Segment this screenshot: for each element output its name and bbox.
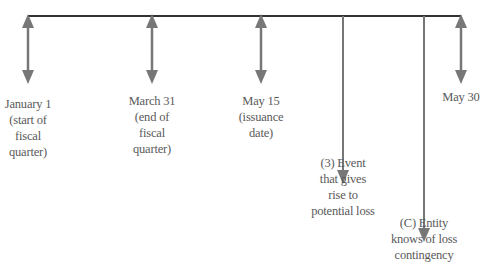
label-line: May 30 bbox=[442, 89, 479, 105]
label-line: May 15 bbox=[239, 93, 284, 109]
label-line: (C) Entity bbox=[391, 215, 457, 231]
label-line: knows of loss bbox=[391, 231, 457, 247]
label-line: March 31 bbox=[129, 93, 176, 109]
arrow-may30-icon bbox=[455, 14, 467, 84]
label-line: fiscal bbox=[5, 128, 51, 144]
label-line: fiscal bbox=[129, 125, 176, 141]
label-line: contingency bbox=[391, 247, 457, 263]
label-line: date) bbox=[239, 125, 284, 141]
label-line: January 1 bbox=[5, 96, 51, 112]
label-january-1: January 1 (start of fiscal quarter) bbox=[5, 96, 51, 160]
label-march-31: March 31 (end of fiscal quarter) bbox=[129, 93, 176, 157]
label-line: (end of bbox=[129, 109, 176, 125]
label-line: (start of bbox=[5, 112, 51, 128]
label-line: (3) Event bbox=[311, 155, 375, 171]
label-line: rise to bbox=[311, 187, 375, 203]
label-line: quarter) bbox=[5, 144, 51, 160]
arrow-mar31-icon bbox=[146, 14, 158, 84]
label-line: quarter) bbox=[129, 141, 176, 157]
label-may-30: May 30 bbox=[442, 89, 479, 105]
label-line: (issuance bbox=[239, 109, 284, 125]
label-may-15: May 15 (issuance date) bbox=[239, 93, 284, 141]
arrow-jan1-icon bbox=[22, 14, 34, 84]
arrow-entity-icon bbox=[418, 16, 430, 242]
label-line: that gives bbox=[311, 171, 375, 187]
arrow-may15-icon bbox=[255, 14, 267, 84]
label-entity-knows: (C) Entity knows of loss contingency bbox=[391, 215, 457, 263]
label-event: (3) Event that gives rise to potential l… bbox=[311, 155, 375, 219]
label-line: potential loss bbox=[311, 203, 375, 219]
